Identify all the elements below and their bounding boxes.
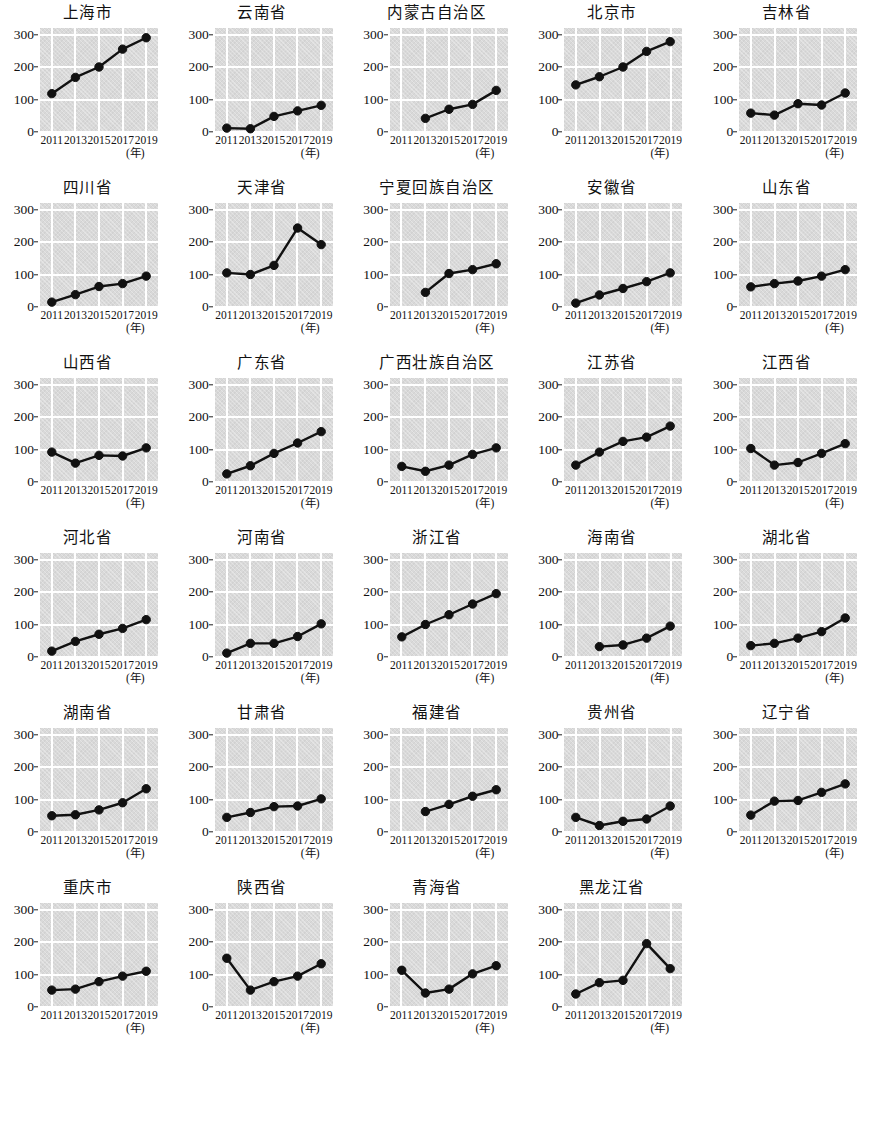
y-axis: 0100200300 bbox=[175, 28, 213, 132]
y-tick-mark bbox=[384, 799, 388, 800]
data-point-marker bbox=[841, 89, 849, 97]
data-point-marker bbox=[841, 780, 849, 788]
x-tick-label: 2015 bbox=[787, 134, 810, 147]
y-tick-mark bbox=[733, 99, 737, 100]
data-point-marker bbox=[317, 427, 325, 435]
y-tick-label: 0 bbox=[726, 125, 733, 139]
x-tick-label: 2015 bbox=[88, 484, 111, 497]
x-tick-label: 2013 bbox=[588, 134, 611, 147]
x-tick-label: 2013 bbox=[64, 1009, 87, 1022]
y-tick-mark bbox=[733, 274, 737, 275]
x-tick-label: 2011 bbox=[565, 1009, 588, 1022]
x-tick-label: 2017 bbox=[461, 309, 484, 322]
x-axis-unit-label: (年) bbox=[476, 847, 495, 860]
y-tick-label: 100 bbox=[14, 618, 34, 632]
y-tick-label: 0 bbox=[377, 825, 384, 839]
data-point-marker bbox=[643, 634, 651, 642]
x-tick-label: 2011 bbox=[740, 134, 763, 147]
y-tick-label: 100 bbox=[14, 793, 34, 807]
x-tick-label: 2017 bbox=[111, 1009, 134, 1022]
y-tick-label: 0 bbox=[726, 475, 733, 489]
x-tick-label: 2019 bbox=[834, 309, 857, 322]
y-tick-mark bbox=[34, 66, 38, 67]
y-tick-mark bbox=[558, 274, 562, 275]
y-tick-mark bbox=[733, 209, 737, 210]
chart-title: 贵州省 bbox=[524, 704, 699, 722]
y-tick-label: 300 bbox=[538, 203, 558, 217]
y-tick-mark bbox=[34, 831, 38, 832]
data-series bbox=[390, 553, 508, 657]
y-tick-label: 300 bbox=[14, 203, 34, 217]
data-point-marker bbox=[222, 124, 230, 132]
data-point-marker bbox=[397, 633, 405, 641]
data-point-marker bbox=[747, 641, 755, 649]
x-tick-label: 2013 bbox=[64, 834, 87, 847]
plot-area bbox=[739, 728, 857, 832]
x-tick-label: 2019 bbox=[659, 484, 682, 497]
x-tick-label: 2013 bbox=[763, 134, 786, 147]
y-tick-label: 100 bbox=[363, 443, 383, 457]
y-tick-mark bbox=[209, 831, 213, 832]
data-point-marker bbox=[118, 45, 126, 53]
x-tick-label: 2013 bbox=[413, 1009, 436, 1022]
y-tick-label: 100 bbox=[538, 793, 558, 807]
chart-panel: 山东省010020030020112013201520172019(年) bbox=[699, 175, 874, 350]
x-tick-label: 2019 bbox=[659, 1009, 682, 1022]
y-tick-mark bbox=[558, 66, 562, 67]
y-tick-mark bbox=[733, 131, 737, 132]
y-tick-mark bbox=[34, 591, 38, 592]
data-series bbox=[215, 203, 333, 307]
data-point-marker bbox=[492, 589, 500, 597]
data-point-marker bbox=[666, 422, 674, 430]
data-point-marker bbox=[572, 990, 580, 998]
chart-title: 广西壮族自治区 bbox=[350, 354, 525, 372]
plot-area bbox=[215, 728, 333, 832]
data-point-marker bbox=[118, 972, 126, 980]
y-tick-label: 100 bbox=[189, 93, 209, 107]
data-series bbox=[739, 553, 857, 657]
x-tick-label: 2019 bbox=[484, 659, 507, 672]
y-tick-label: 300 bbox=[538, 728, 558, 742]
plot-area bbox=[390, 28, 508, 132]
y-tick-label: 300 bbox=[538, 28, 558, 42]
y-axis: 0100200300 bbox=[350, 553, 388, 657]
y-tick-label: 300 bbox=[363, 728, 383, 742]
data-point-marker bbox=[794, 100, 802, 108]
y-tick-mark bbox=[733, 799, 737, 800]
data-point-marker bbox=[572, 299, 580, 307]
x-tick-label: 2019 bbox=[484, 134, 507, 147]
data-point-marker bbox=[444, 800, 452, 808]
y-tick-label: 200 bbox=[538, 585, 558, 599]
y-tick-label: 0 bbox=[377, 475, 384, 489]
data-point-marker bbox=[118, 279, 126, 287]
y-tick-mark bbox=[209, 559, 213, 560]
data-point-marker bbox=[293, 439, 301, 447]
y-tick-mark bbox=[209, 591, 213, 592]
x-tick-label: 2017 bbox=[810, 484, 833, 497]
y-axis: 0100200300 bbox=[0, 728, 38, 832]
x-tick-label: 2019 bbox=[135, 484, 158, 497]
x-axis-unit-label: (年) bbox=[825, 672, 844, 685]
y-tick-mark bbox=[558, 209, 562, 210]
x-axis-unit-label: (年) bbox=[301, 322, 320, 335]
x-tick-label: 2017 bbox=[810, 309, 833, 322]
x-tick-label: 2015 bbox=[88, 309, 111, 322]
data-point-marker bbox=[48, 89, 56, 97]
chart-panel: 湖南省010020030020112013201520172019(年) bbox=[0, 700, 175, 875]
x-tick-label: 2011 bbox=[565, 659, 588, 672]
y-tick-label: 100 bbox=[363, 93, 383, 107]
x-axis-unit-label: (年) bbox=[301, 147, 320, 160]
data-point-marker bbox=[619, 817, 627, 825]
y-tick-mark bbox=[209, 241, 213, 242]
plot-area bbox=[215, 203, 333, 307]
y-tick-label: 300 bbox=[713, 728, 733, 742]
plot-area bbox=[215, 903, 333, 1007]
data-point-marker bbox=[317, 620, 325, 628]
x-axis-unit-label: (年) bbox=[825, 322, 844, 335]
x-tick-label: 2019 bbox=[309, 134, 332, 147]
y-tick-label: 200 bbox=[538, 410, 558, 424]
x-axis-unit-label: (年) bbox=[650, 497, 669, 510]
x-tick-label: 2015 bbox=[437, 484, 460, 497]
data-point-marker bbox=[222, 954, 230, 962]
y-tick-label: 0 bbox=[377, 650, 384, 664]
